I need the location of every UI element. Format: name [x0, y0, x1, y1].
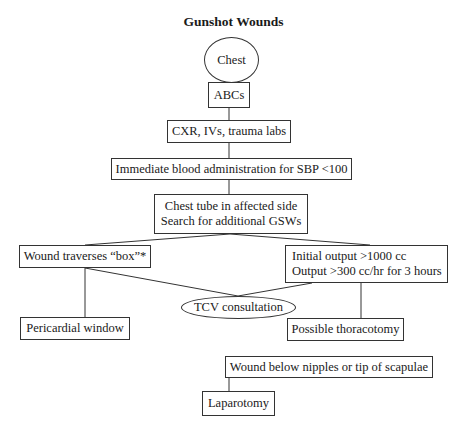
wound-traverses-box-node: Wound traverses “box”*: [19, 245, 151, 268]
wound-below-nipples-node: Wound below nipples or tip of scapulae: [225, 356, 433, 378]
chest-tube-line-2: Search for additional GSWs: [161, 214, 302, 229]
cxr-label: CXR, IVs, trauma labs: [172, 124, 286, 139]
initial-output-node: Initial output >1000 cc Output >300 cc/h…: [285, 245, 448, 283]
possible-thoracotomy-node: Possible thoracotomy: [287, 318, 404, 341]
chest-tube-node: Chest tube in affected side Search for a…: [154, 194, 308, 234]
wound-traverses-label: Wound traverses “box”*: [24, 249, 147, 264]
initial-output-line-1: Initial output >1000 cc: [292, 249, 406, 264]
chest-label: Chest: [217, 53, 245, 68]
pericardial-window-node: Pericardial window: [20, 317, 130, 340]
laparotomy-label: Laparotomy: [208, 396, 269, 411]
thoracotomy-label: Possible thoracotomy: [292, 322, 400, 337]
abcs-node: ABCs: [208, 82, 250, 108]
tcv-label: TCV consultation: [194, 300, 283, 315]
wound-below-label: Wound below nipples or tip of scapulae: [230, 360, 428, 375]
cxr-node: CXR, IVs, trauma labs: [167, 120, 291, 143]
chest-node: Chest: [204, 37, 259, 83]
blood-label: Immediate blood administration for SBP <…: [116, 162, 348, 177]
chest-tube-line-1: Chest tube in affected side: [165, 199, 297, 214]
laparotomy-node: Laparotomy: [202, 391, 275, 416]
abcs-label: ABCs: [214, 88, 245, 103]
tcv-consultation-node: TCV consultation: [181, 296, 296, 319]
initial-output-line-2: Output >300 cc/hr for 3 hours: [292, 264, 442, 279]
blood-administration-node: Immediate blood administration for SBP <…: [111, 158, 352, 180]
pericardial-label: Pericardial window: [26, 321, 124, 336]
